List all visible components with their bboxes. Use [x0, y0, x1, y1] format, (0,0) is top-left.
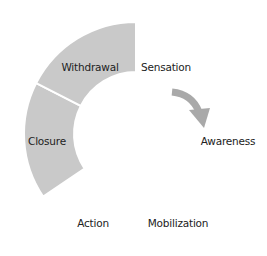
cycle-diagram: Sensation Awareness Mobilization Action …	[0, 0, 267, 256]
label-action: Action	[77, 217, 109, 229]
cycle-ring	[0, 0, 267, 256]
label-mobilization: Mobilization	[148, 217, 209, 229]
label-awareness: Awareness	[201, 135, 256, 147]
label-closure: Closure	[28, 135, 66, 147]
label-withdrawal: Withdrawal	[61, 61, 118, 73]
label-sensation: Sensation	[141, 61, 191, 73]
